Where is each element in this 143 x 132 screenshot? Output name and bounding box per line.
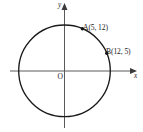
figure-canvas bbox=[0, 0, 143, 132]
y-axis-arrowhead bbox=[62, 3, 68, 10]
point-a-label: A(5, 12) bbox=[83, 23, 108, 32]
coordinate-geometry-figure: A(5, 12) B(12, 5) y x O bbox=[0, 0, 143, 132]
y-axis-label: y bbox=[58, 1, 61, 9]
origin-label: O bbox=[58, 72, 63, 81]
point-b-label: B(12, 5) bbox=[106, 47, 131, 56]
x-axis-label: x bbox=[134, 72, 137, 80]
